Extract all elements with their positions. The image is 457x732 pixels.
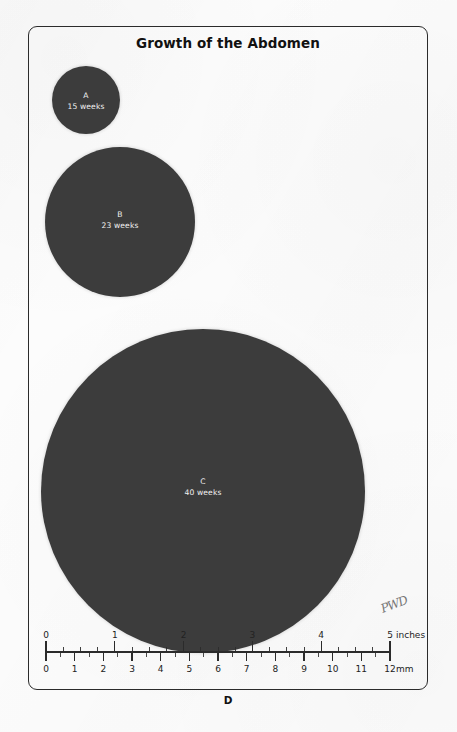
ruler-label-mm-6: 6 <box>215 664 221 674</box>
ruler-scale-bar: 012345inches0123456789101112mm <box>0 628 457 690</box>
circle-c-label: C 40 weeks <box>41 477 365 498</box>
ruler-unit-mm: mm <box>396 664 414 674</box>
ruler-label-mm-1: 1 <box>72 664 78 674</box>
circle-c-weeks: 40 weeks <box>41 488 365 499</box>
ruler-label-mm-11: 11 <box>356 664 367 674</box>
circle-b-weeks: 23 weeks <box>45 221 195 232</box>
ruler-label-inch-1: 1 <box>112 630 118 640</box>
ruler-svg: 012345inches0123456789101112mm <box>0 628 457 690</box>
ruler-label-mm-0: 0 <box>43 664 49 674</box>
ruler-label-inch-2: 2 <box>181 630 187 640</box>
circle-a-weeks: 15 weeks <box>52 102 120 113</box>
circle-a-letter: A <box>52 91 120 102</box>
circle-c-letter: C <box>41 477 365 488</box>
abdomen-circle-c: C 40 weeks <box>41 329 365 653</box>
ruler-label-inch-3: 3 <box>250 630 256 640</box>
abdomen-circle-a: A 15 weeks <box>52 66 120 134</box>
ruler-label-mm-10: 10 <box>327 664 339 674</box>
ruler-unit-inches: inches <box>396 630 425 640</box>
ruler-label-mm-5: 5 <box>186 664 192 674</box>
ruler-label-inch-4: 4 <box>318 630 324 640</box>
ruler-label-mm-4: 4 <box>158 664 164 674</box>
circle-a-label: A 15 weeks <box>52 91 120 112</box>
ruler-label-mm-9: 9 <box>301 664 307 674</box>
ruler-label-mm-12: 12 <box>384 664 395 674</box>
ruler-label-mm-8: 8 <box>272 664 278 674</box>
figure-title: Growth of the Abdomen <box>28 35 428 51</box>
panel-letter-d: D <box>28 694 428 706</box>
ruler-label-mm-2: 2 <box>100 664 106 674</box>
ruler-geometry <box>46 641 390 661</box>
circle-b-letter: B <box>45 210 195 221</box>
ruler-label-inch-5: 5 <box>387 630 393 640</box>
ruler-label-mm-7: 7 <box>244 664 250 674</box>
abdomen-circle-b: B 23 weeks <box>45 147 195 297</box>
figure-page: Growth of the Abdomen A 15 weeks B 23 we… <box>0 0 457 732</box>
circle-b-label: B 23 weeks <box>45 210 195 231</box>
ruler-label-inch-0: 0 <box>43 630 49 640</box>
ruler-label-mm-3: 3 <box>129 664 135 674</box>
